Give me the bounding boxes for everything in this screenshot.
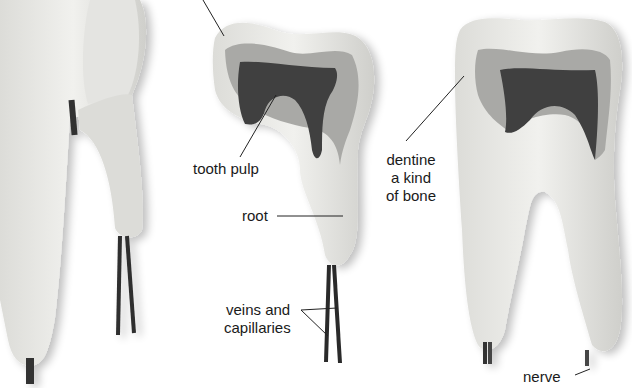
label-root: root (242, 207, 268, 224)
label-nerve: nerve (523, 368, 561, 385)
molar-cross-section (455, 18, 622, 366)
tooth-illustration (0, 0, 632, 388)
label-dentine-line1: dentine (381, 151, 441, 168)
vein-1 (326, 265, 329, 362)
label-veins-line2: capillaries (224, 319, 291, 336)
label-dentine-line2: a kind (381, 169, 441, 186)
whole-tooth (0, 0, 146, 384)
vein-2 (334, 265, 340, 363)
label-tooth-pulp: tooth pulp (193, 160, 259, 177)
label-dentine-line3: of bone (381, 187, 441, 204)
incisor-cross-section (213, 23, 374, 266)
tooth-diagram: tooth pulp root veins and capillaries de… (0, 0, 632, 388)
label-veins-line1: veins and (226, 301, 290, 318)
